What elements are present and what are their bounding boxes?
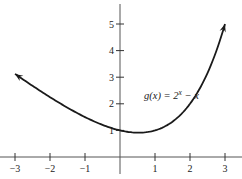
y-tick-label: 2 (109, 98, 114, 109)
x-tick-label: 3 (223, 163, 228, 174)
x-tick-label: 1 (153, 163, 158, 174)
annotations: g(x) = 2x − x (144, 88, 199, 102)
y-ticks: 12345 (109, 19, 124, 136)
function-label: g(x) = 2x − x (144, 88, 199, 102)
x-ticks: −3−2−1123 (10, 153, 228, 174)
x-tick-label: −1 (80, 163, 91, 174)
y-tick-label: 3 (109, 72, 114, 83)
function-graph: −3−2−1123 12345 g(x) = 2x − x (0, 0, 242, 179)
y-tick-label: 5 (109, 19, 114, 30)
x-tick-label: −2 (45, 163, 56, 174)
x-tick-label: −3 (10, 163, 21, 174)
arrowhead-left-icon (15, 74, 23, 81)
x-tick-label: 2 (188, 163, 193, 174)
y-tick-label: 4 (109, 45, 114, 56)
